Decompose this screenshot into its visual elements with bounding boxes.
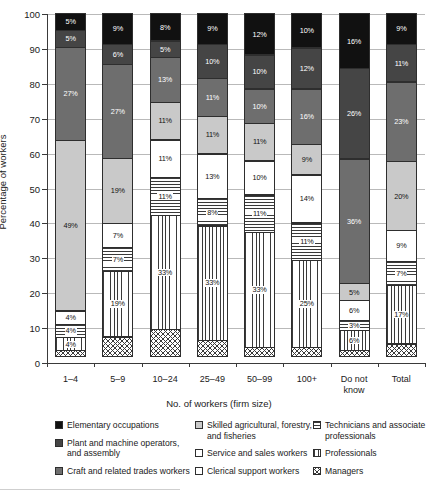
y-tick-label: 100 — [24, 9, 40, 20]
bar-segment[interactable] — [55, 350, 86, 357]
segment-value-label: 13% — [205, 173, 219, 180]
bar-segment[interactable]: 9% — [291, 144, 322, 175]
bar-segment[interactable]: 10% — [244, 89, 275, 124]
legend-item[interactable]: Plant and machine operators, and assembl… — [55, 438, 195, 459]
bar-segment[interactable]: 9% — [386, 13, 417, 44]
bar-segment[interactable]: 33% — [197, 226, 228, 341]
bar-segment[interactable] — [102, 337, 133, 358]
bar-segment[interactable]: 19% — [102, 271, 133, 337]
bar-segment[interactable]: 6% — [339, 330, 370, 351]
legend-item-label: Clerical support workers — [207, 466, 299, 477]
bar-segment[interactable]: 10% — [244, 55, 275, 90]
legend-item[interactable]: Professionals — [313, 448, 430, 459]
bar-segment[interactable]: 11% — [291, 223, 322, 261]
bar-segment[interactable]: 10% — [197, 44, 228, 79]
stacked-bar[interactable]: 12%10%10%11%10%11%33% — [244, 14, 275, 363]
legend-item[interactable]: Managers — [313, 466, 430, 477]
legend-item-label: Managers — [325, 466, 363, 477]
bar-segment[interactable]: 11% — [244, 195, 275, 233]
legend-item[interactable]: Technicians and associate professionals — [313, 420, 430, 441]
x-tick — [425, 363, 426, 367]
bar-segment[interactable]: 26% — [339, 68, 370, 159]
bar-segment[interactable]: 11% — [197, 78, 228, 116]
bar-segment[interactable] — [197, 340, 228, 357]
bar-segment[interactable]: 10% — [244, 161, 275, 196]
bar-segment[interactable]: 4% — [55, 337, 86, 351]
bar-segment[interactable]: 25% — [291, 260, 322, 347]
bar-segment[interactable]: 11% — [244, 123, 275, 161]
bar-segment[interactable]: 13% — [197, 154, 228, 199]
bar-segment[interactable]: 27% — [102, 64, 133, 158]
stacked-bar[interactable]: 9%6%27%19%7%7%19% — [102, 14, 133, 363]
legend-item-label: Professionals — [325, 448, 377, 459]
bar-segment[interactable]: 11% — [197, 116, 228, 154]
bar-segment[interactable]: 16% — [339, 13, 370, 69]
bar-segment[interactable]: 10% — [291, 13, 322, 48]
x-tick — [236, 363, 237, 367]
bar-segment[interactable]: 12% — [291, 48, 322, 90]
bar-segment[interactable]: 7% — [102, 223, 133, 247]
legend-item[interactable]: Elementary occupations — [55, 420, 195, 431]
y-tick-label: 90 — [29, 43, 40, 54]
bar-segment[interactable]: 14% — [291, 175, 322, 224]
bar-segment[interactable]: 33% — [150, 215, 181, 330]
bar-segment[interactable] — [150, 329, 181, 357]
bar-segment[interactable]: 6% — [102, 44, 133, 65]
bar-segment[interactable]: 5% — [55, 30, 86, 47]
bar-segment[interactable]: 11% — [150, 177, 181, 215]
bar-segment[interactable] — [386, 344, 417, 358]
stacked-bar[interactable]: 16%26%36%5%6%3%6% — [339, 14, 370, 363]
legend-column: Technicians and associate professionalsP… — [313, 420, 430, 483]
horizontal-stripe-swatch — [313, 421, 321, 429]
bar-segment[interactable]: 6% — [339, 300, 370, 321]
bar-segment[interactable]: 11% — [150, 102, 181, 140]
bar-segment[interactable]: 13% — [150, 57, 181, 102]
bar-segment[interactable]: 11% — [386, 44, 417, 82]
bar-segment[interactable]: 5% — [339, 283, 370, 300]
x-tick — [331, 363, 332, 367]
bar-segment[interactable]: 9% — [102, 13, 133, 44]
bar-segment[interactable]: 5% — [150, 41, 181, 58]
stacked-bar[interactable]: 9%11%23%20%9%7%17% — [386, 14, 417, 363]
x-tick — [378, 363, 379, 367]
bar-segment[interactable]: 16% — [291, 89, 322, 145]
bar-segment[interactable]: 4% — [55, 324, 86, 338]
segment-value-label: 26% — [347, 110, 361, 117]
bar-segment[interactable]: 4% — [55, 311, 86, 325]
bar-segment[interactable] — [339, 350, 370, 357]
bar-segment[interactable]: 7% — [102, 247, 133, 271]
bar-segment[interactable]: 9% — [386, 230, 417, 261]
legend-item[interactable]: Craft and related trades workers — [55, 466, 195, 477]
stacked-bar[interactable]: 9%10%11%11%13%8%33% — [197, 14, 228, 363]
y-tick — [42, 293, 47, 294]
legend-item[interactable]: Service and sales workers — [195, 448, 313, 459]
legend-item[interactable]: Clerical support workers — [195, 466, 313, 477]
stacked-bar[interactable]: 10%12%16%9%14%11%25% — [291, 14, 322, 363]
bar-segment[interactable]: 12% — [244, 13, 275, 55]
segment-value-label: 19% — [110, 300, 126, 307]
segment-value-label: 33% — [157, 269, 173, 276]
bar-segment[interactable]: 19% — [102, 158, 133, 224]
y-tick-label: 70 — [29, 113, 40, 124]
segment-value-label: 9% — [113, 25, 123, 32]
bar-segment[interactable]: 9% — [197, 13, 228, 44]
bar-segment[interactable]: 5% — [55, 13, 86, 30]
bar-segment[interactable]: 20% — [386, 161, 417, 231]
bar-segment[interactable]: 11% — [150, 140, 181, 178]
bar-segment[interactable]: 7% — [386, 261, 417, 285]
stacked-bar[interactable]: 8%5%13%11%11%11%33% — [150, 14, 181, 363]
bar-segment[interactable]: 33% — [244, 232, 275, 347]
y-tick — [42, 189, 47, 190]
bar-segment[interactable]: 49% — [55, 140, 86, 311]
bar-segment[interactable]: 8% — [197, 198, 228, 226]
bar-segment[interactable]: 17% — [386, 285, 417, 344]
bar-segment[interactable]: 23% — [386, 82, 417, 162]
bar-segment[interactable]: 27% — [55, 47, 86, 141]
bar-segment[interactable] — [244, 347, 275, 357]
bar-segment[interactable]: 8% — [150, 13, 181, 41]
legend-item[interactable]: Skilled agricultural, forestry, and fish… — [195, 420, 313, 441]
bar-segment[interactable] — [291, 347, 322, 357]
stacked-bar[interactable]: 5%5%27%49%4%4%4% — [55, 14, 86, 363]
segment-value-label: 11% — [206, 131, 219, 138]
bar-segment[interactable]: 36% — [339, 159, 370, 285]
